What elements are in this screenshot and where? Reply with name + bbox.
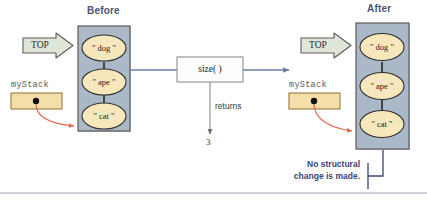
mystack-label-left: myStack — [11, 80, 49, 90]
note-connector — [368, 150, 383, 176]
diagram-canvas: Before After TOP TOP myStack myStack " d… — [0, 0, 427, 203]
note-line-2: change is made. — [268, 171, 360, 182]
return-value: 3 — [206, 137, 211, 147]
mystack-label-right: myStack — [289, 80, 327, 90]
after-node-0-label: " dog " — [360, 42, 404, 52]
before-node-0-label: " dog " — [82, 43, 126, 53]
after-heading: After — [367, 3, 391, 14]
top-label-right: TOP — [309, 40, 327, 50]
note-line-1: No structural — [268, 159, 360, 170]
after-node-1-label: " ape " — [360, 81, 404, 91]
returns-label: returns — [215, 101, 241, 111]
operation-label: size( ) — [177, 64, 243, 74]
before-heading: Before — [87, 5, 120, 16]
after-node-2-label: " cat " — [360, 119, 404, 129]
diagram-vector-layer — [0, 0, 427, 203]
before-node-1-label: " ape " — [82, 77, 126, 87]
before-node-2-label: " cat " — [82, 111, 126, 121]
top-label-left: TOP — [31, 40, 49, 50]
